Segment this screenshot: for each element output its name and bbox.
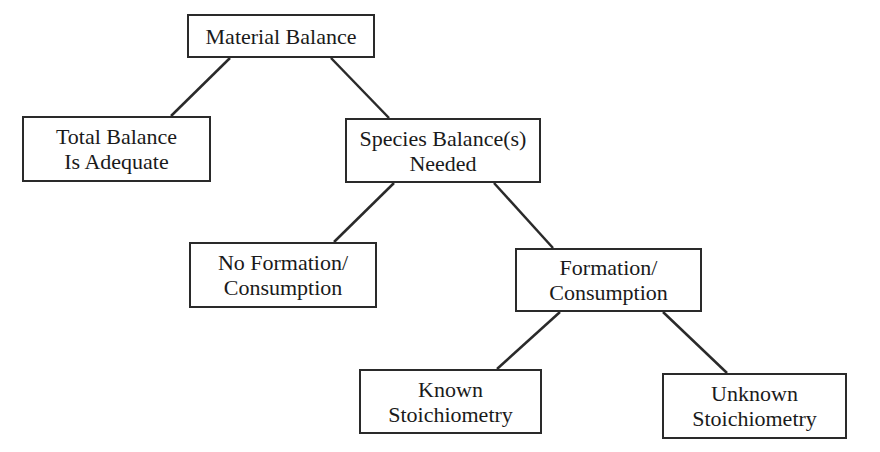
node-label-line1: Unknown [711,381,798,406]
node-unknown-stoichiometry: Unknown Stoichiometry [662,373,847,439]
edge-species-formation [494,183,553,248]
edge-material-species [331,58,389,118]
node-label-line1: No Formation/ [218,250,348,275]
node-formation: Formation/ Consumption [515,248,702,312]
node-label-line2: Consumption [549,280,668,305]
node-species-balance: Species Balance(s) Needed [345,118,541,183]
node-no-formation: No Formation/ Consumption [189,242,377,308]
node-material-balance: Material Balance [187,14,375,58]
node-label-line1: Known [418,377,483,402]
edge-formation-unknown [663,312,727,373]
edge-species-noformation [334,183,394,242]
node-label-line2: Needed [409,151,476,176]
node-label: Material Balance [206,24,357,49]
node-label-line1: Formation/ [560,255,658,280]
node-label-line2: Stoichiometry [692,406,817,431]
edge-formation-known [497,312,560,369]
node-total-balance: Total Balance Is Adequate [22,116,211,182]
node-label-line1: Species Balance(s) [360,126,527,151]
node-label-line2: Consumption [224,275,343,300]
node-known-stoichiometry: Known Stoichiometry [359,369,542,434]
edge-material-total [171,58,230,116]
node-label-line2: Stoichiometry [388,402,513,427]
node-label-line1: Total Balance [56,124,177,149]
node-label-line2: Is Adequate [64,149,168,174]
